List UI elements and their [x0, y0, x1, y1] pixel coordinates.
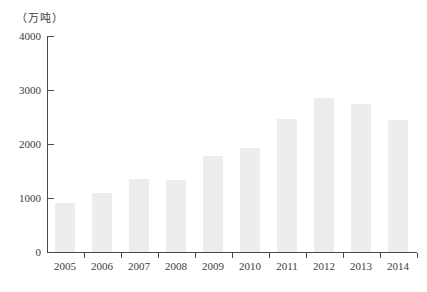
- bar-2006: [92, 193, 112, 252]
- bar-2007: [129, 179, 149, 252]
- bar-chart: （万吨） 01000200030004000200520062007200820…: [0, 0, 427, 292]
- y-tick: [48, 198, 54, 199]
- x-tick-label-2005: 2005: [46, 260, 84, 272]
- x-tick: [343, 253, 344, 258]
- y-axis-unit-label: （万吨）: [16, 9, 64, 25]
- x-tick-label-2006: 2006: [83, 260, 121, 272]
- y-tick: [48, 144, 54, 145]
- bar-2008: [166, 180, 186, 252]
- x-tick: [306, 253, 307, 258]
- x-tick-label-2008: 2008: [157, 260, 195, 272]
- x-tick: [84, 253, 85, 258]
- x-tick: [380, 253, 381, 258]
- y-tick-label: 3000: [9, 85, 41, 96]
- y-tick: [48, 36, 54, 37]
- x-tick: [232, 253, 233, 258]
- y-tick: [48, 252, 54, 253]
- bar-2014: [388, 120, 408, 252]
- bar-2012: [314, 98, 334, 252]
- x-tick: [269, 253, 270, 258]
- x-tick-label-2009: 2009: [194, 260, 232, 272]
- x-tick-label-2014: 2014: [379, 260, 417, 272]
- x-tick: [195, 253, 196, 258]
- bar-2011: [277, 119, 297, 252]
- bar-2009: [203, 156, 223, 252]
- x-tick-label-2010: 2010: [231, 260, 269, 272]
- y-tick-label: 4000: [9, 31, 41, 42]
- x-tick-label-2011: 2011: [268, 260, 306, 272]
- x-tick-label-2013: 2013: [342, 260, 380, 272]
- x-tick: [158, 253, 159, 258]
- bar-2005: [55, 203, 75, 252]
- x-tick: [121, 253, 122, 258]
- bar-2010: [240, 148, 260, 252]
- y-tick-label: 2000: [9, 139, 41, 150]
- bar-2013: [351, 104, 371, 253]
- y-tick-label: 0: [9, 247, 41, 258]
- y-tick: [48, 90, 54, 91]
- x-tick-label-2007: 2007: [120, 260, 158, 272]
- x-tick: [417, 253, 418, 258]
- y-tick-label: 1000: [9, 193, 41, 204]
- x-tick-label-2012: 2012: [305, 260, 343, 272]
